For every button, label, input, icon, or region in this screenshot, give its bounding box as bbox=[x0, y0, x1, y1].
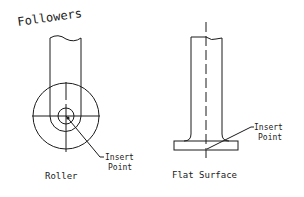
flat-surface-label: Flat Surface bbox=[172, 170, 237, 180]
flat-callout-line2: Point bbox=[258, 133, 282, 142]
flat-surface-follower bbox=[174, 22, 254, 158]
insert-point-marker bbox=[66, 116, 69, 119]
flat-leader-line bbox=[207, 127, 251, 149]
roller-follower bbox=[32, 36, 104, 157]
roller-callout-line2: Point bbox=[108, 163, 132, 172]
roller-leader-line bbox=[66, 116, 100, 157]
flat-callout-line1: Insert bbox=[254, 123, 283, 132]
roller-callout-line1: Insert bbox=[105, 153, 134, 162]
diagram-title: Followers bbox=[16, 6, 82, 29]
followers-diagram: Followers Insert Point Roller bbox=[0, 0, 304, 197]
roller-label: Roller bbox=[45, 171, 78, 181]
